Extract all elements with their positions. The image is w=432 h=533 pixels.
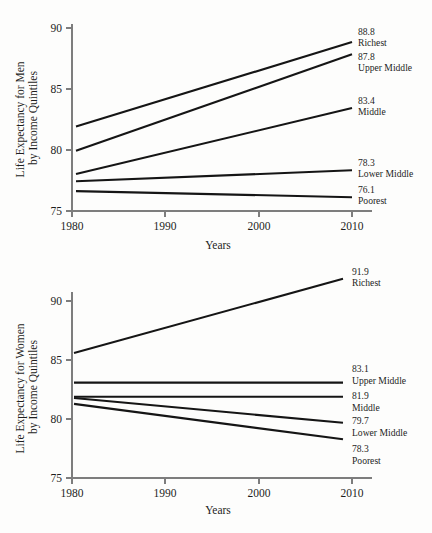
x-tick-label-women-1: 1990	[154, 487, 177, 499]
y-tick-label-women-1: 80	[51, 413, 63, 425]
annotation-value-women-richest: 91.9	[352, 266, 369, 277]
chart-svg-men: Life Expectancy for Men by Income Quinti…	[0, 0, 432, 262]
y-axis-title-men-line2: by Income Quintiles	[27, 71, 40, 165]
chart-panel-women: Life Expectancy for Women by Income Quin…	[0, 262, 432, 533]
annotation-label-women-richest: Richest	[352, 277, 381, 288]
x-tick-label-women-3: 2010	[341, 487, 364, 499]
y-axis-title-women: Life Expectancy for Women by Income Quin…	[14, 321, 40, 454]
annotation-label-men-richest: Richest	[358, 37, 387, 48]
series-lines-men	[76, 42, 352, 197]
y-ticks-women: 90 85 80 75	[51, 295, 73, 484]
annotation-value-men-middle: 83.4	[358, 95, 375, 106]
annotation-value-men-upper-middle: 87.8	[358, 51, 375, 62]
annotation-label-men-poorest: Poorest	[358, 195, 387, 206]
y-tick-label-women-2: 85	[51, 354, 63, 366]
x-tick-label-women-2: 2000	[248, 487, 271, 499]
y-tick-label-women-3: 90	[51, 295, 63, 307]
series-line-men-lower-middle	[76, 170, 352, 181]
annotation-label-men-upper-middle: Upper Middle	[358, 62, 412, 73]
x-tick-label-men-3: 2010	[341, 220, 364, 232]
x-tick-label-women-0: 1980	[61, 487, 84, 499]
figure-two-panel-life-expectancy: Life Expectancy for Men by Income Quinti…	[0, 0, 432, 533]
annotation-value-men-poorest: 76.1	[358, 184, 375, 195]
x-axis-title-women: Years	[205, 504, 231, 516]
y-axis-title-women-line2: by Income Quintiles	[27, 340, 40, 434]
annotation-label-men-middle: Middle	[358, 106, 386, 117]
series-line-men-middle	[76, 108, 352, 174]
series-lines-women	[74, 279, 343, 440]
y-tick-label-men-1: 80	[51, 144, 63, 156]
chart-svg-women: Life Expectancy for Women by Income Quin…	[0, 262, 432, 533]
annotation-value-women-poorest: 78.3	[352, 443, 369, 454]
y-axis-title-men-line1: Life Expectancy for Men	[14, 61, 27, 177]
annotation-label-men-lower-middle: Lower Middle	[358, 168, 413, 179]
annotation-value-women-upper-middle: 83.1	[352, 363, 369, 374]
annotation-value-women-lower-middle: 79.7	[352, 415, 369, 426]
series-line-women-poorest	[74, 404, 343, 439]
x-tick-label-men-0: 1980	[61, 220, 84, 232]
series-line-men-richest	[76, 42, 352, 126]
x-ticks-women: 1980 1990 2000 2010	[61, 478, 364, 499]
annotation-value-men-richest: 88.8	[358, 26, 375, 37]
y-tick-label-men-3: 90	[51, 22, 63, 34]
series-line-men-upper-middle	[76, 54, 352, 151]
annotation-label-women-upper-middle: Upper Middle	[352, 375, 406, 386]
annotation-value-men-lower-middle: 78.3	[358, 157, 375, 168]
chart-panel-men: Life Expectancy for Men by Income Quinti…	[0, 0, 432, 262]
y-axis-title-men: Life Expectancy for Men by Income Quinti…	[14, 59, 40, 178]
series-line-men-poorest	[76, 191, 352, 197]
y-ticks-men: 90 85 80 75	[51, 22, 73, 217]
series-line-women-lower-middle	[74, 398, 343, 423]
x-axis-title-men: Years	[205, 239, 231, 251]
x-tick-label-men-2: 2000	[248, 220, 271, 232]
y-tick-label-women-0: 75	[51, 472, 63, 484]
x-tick-label-men-1: 1990	[154, 220, 177, 232]
y-axis-title-women-line1: Life Expectancy for Women	[14, 323, 27, 453]
y-tick-label-men-0: 75	[51, 205, 63, 217]
annotation-label-women-middle: Middle	[352, 402, 380, 413]
series-line-women-richest	[74, 279, 343, 353]
annotation-label-women-lower-middle: Lower Middle	[352, 427, 407, 438]
y-tick-label-men-2: 85	[51, 83, 63, 95]
annotations-men: 88.8 Richest 87.8 Upper Middle 83.4 Midd…	[358, 26, 413, 206]
annotations-women: 91.9 Richest 83.1 Upper Middle 81.9 Midd…	[352, 266, 407, 466]
annotation-label-women-poorest: Poorest	[352, 455, 381, 466]
annotation-value-women-middle: 81.9	[352, 390, 369, 401]
x-ticks-men: 1980 1990 2000 2010	[61, 211, 364, 232]
